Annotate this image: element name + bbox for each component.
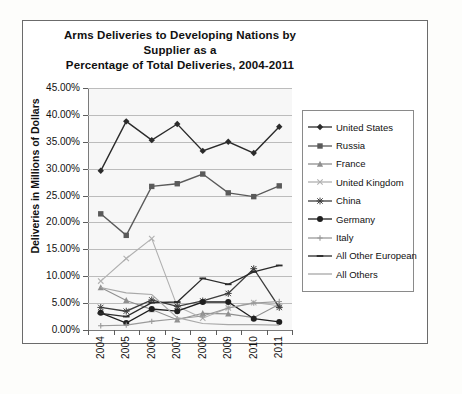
legend-label: Germany: [336, 214, 375, 225]
data-point-square: [226, 190, 231, 195]
data-point-diamond: [225, 139, 231, 145]
legend-marker-square-icon: [307, 139, 333, 153]
legend-label: United Kingdom: [336, 177, 404, 188]
data-point-square: [277, 183, 282, 188]
y-tick-label: 30.00%: [26, 164, 80, 174]
data-point-circle: [200, 299, 206, 305]
legend-marker-dash-icon: [307, 249, 333, 263]
legend-item-russia[interactable]: Russia: [307, 136, 408, 154]
y-tick-label: 35.00%: [26, 137, 80, 147]
series-line: [101, 265, 280, 316]
data-point-plus: [149, 319, 154, 324]
series-united-states: [98, 118, 283, 174]
data-point-dash: [250, 271, 257, 273]
data-point-square: [251, 194, 256, 199]
legend-label: United States: [336, 122, 393, 133]
x-tick-label: 2005: [120, 336, 131, 359]
legend-marker-circle-icon: [307, 212, 333, 226]
legend-marker-diamond-icon: [307, 120, 333, 134]
legend-item-united-states[interactable]: United States: [307, 118, 408, 136]
data-point-circle: [276, 319, 282, 325]
legend-label: All Others: [336, 269, 378, 280]
data-point-triangle: [98, 284, 104, 290]
data-point-dash: [225, 283, 232, 285]
legend-label: China: [336, 195, 361, 206]
data-point-plus: [317, 235, 322, 240]
data-point-dash: [174, 301, 181, 303]
x-tick-mark: [114, 330, 115, 335]
data-point-square: [175, 181, 180, 186]
data-point-circle: [149, 306, 155, 312]
y-tick-label: 40.00%: [26, 110, 80, 120]
data-point-circle: [251, 316, 257, 322]
y-tick-label: 5.00%: [26, 298, 80, 308]
y-tick-label: 0.00%: [26, 325, 80, 335]
data-point-square: [200, 171, 205, 176]
x-tick-label: 2011: [273, 336, 284, 358]
data-point-x: [124, 256, 129, 261]
data-point-square: [149, 184, 154, 189]
legend-marker-asterisk-icon: [307, 194, 333, 208]
data-point-circle: [174, 308, 180, 314]
legend-item-united-kingdom[interactable]: United Kingdom: [307, 173, 408, 191]
data-point-diamond: [98, 168, 104, 174]
data-point-circle: [317, 216, 323, 222]
y-tick-label: 15.00%: [26, 244, 80, 254]
data-point-dash: [123, 316, 130, 318]
legend-item-germany[interactable]: Germany: [307, 210, 408, 228]
data-point-circle: [225, 299, 231, 305]
series-united-kingdom: [98, 236, 282, 321]
series-russia: [98, 171, 282, 238]
x-tick-mark: [139, 330, 140, 335]
x-tick-mark: [190, 330, 191, 335]
legend-item-france[interactable]: France: [307, 155, 408, 173]
x-tick-mark: [88, 330, 89, 335]
legend-item-china[interactable]: China: [307, 192, 408, 210]
data-point-asterisk: [317, 197, 324, 204]
series-line: [101, 174, 280, 235]
x-tick-label: 2004: [95, 336, 106, 359]
x-tick-label: 2006: [146, 336, 157, 359]
data-point-square: [124, 233, 129, 238]
data-point-dash: [148, 302, 155, 304]
legend-label: France: [336, 158, 366, 169]
x-tick-mark: [292, 330, 293, 335]
y-tick-label: 45.00%: [26, 83, 80, 93]
x-tick-label: 2010: [248, 336, 259, 359]
data-point-x: [98, 278, 103, 283]
legend-marker-triangle-icon: [307, 157, 333, 171]
y-tick-label: 10.00%: [26, 271, 80, 281]
data-point-triangle: [123, 297, 129, 303]
x-tick-label: 2008: [197, 336, 208, 359]
legend-label: All Other European: [336, 250, 417, 261]
data-point-dash: [317, 255, 324, 257]
data-point-x: [149, 236, 154, 241]
data-point-asterisk: [123, 308, 130, 315]
data-point-square: [317, 143, 322, 148]
x-tick-mark: [241, 330, 242, 335]
data-point-asterisk: [276, 304, 283, 311]
x-tick-mark: [216, 330, 217, 335]
x-tick-mark: [267, 330, 268, 335]
x-tick-mark: [165, 330, 166, 335]
data-point-dash: [199, 277, 206, 279]
data-point-plus: [98, 323, 103, 328]
legend-label: Russia: [336, 140, 365, 151]
legend-marker-plus-icon: [307, 231, 333, 245]
legend-item-all-other-european[interactable]: All Other European: [307, 247, 408, 265]
legend-marker-x-icon: [307, 175, 333, 189]
chart-legend: United StatesRussiaFranceUnited KingdomC…: [302, 110, 414, 292]
data-point-diamond: [317, 124, 323, 130]
legend-label: Italy: [336, 232, 353, 243]
legend-item-italy[interactable]: Italy: [307, 228, 408, 246]
data-point-square: [98, 211, 103, 216]
x-tick-label: 2009: [222, 336, 233, 359]
x-tick-label: 2007: [171, 336, 182, 359]
series-lines: [88, 88, 292, 330]
series-line: [101, 121, 280, 170]
data-point-dash: [276, 265, 283, 267]
data-point-dash: [97, 312, 104, 314]
legend-item-all-others[interactable]: All Others: [307, 265, 408, 283]
data-point-asterisk: [225, 290, 232, 297]
y-tick-label: 25.00%: [26, 191, 80, 201]
